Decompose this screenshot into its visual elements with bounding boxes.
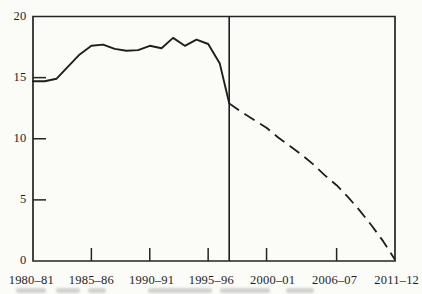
x-tick-label-2011: 2011–12 xyxy=(374,273,419,287)
y-tick-label-0: 0 xyxy=(20,253,26,267)
x-tick-label-1990: 1990–91 xyxy=(129,273,174,287)
y-tick-label-15: 15 xyxy=(14,70,27,84)
line-chart: 201510501980–811985–861990–911995–962000… xyxy=(0,0,422,294)
y-tick-label-20: 20 xyxy=(14,9,27,23)
x-tick-label-2000: 2000–01 xyxy=(250,273,295,287)
y-tick-label-10: 10 xyxy=(14,131,27,145)
projected-series-line xyxy=(229,103,395,259)
chart-figure: 201510501980–811985–861990–911995–962000… xyxy=(0,0,422,294)
actual-series-line xyxy=(33,38,229,103)
x-tick-label-1980: 1980–81 xyxy=(9,273,54,287)
x-tick-label-2006: 2006–07 xyxy=(312,273,357,287)
x-tick-label-1985: 1985–86 xyxy=(69,273,114,287)
y-tick-label-5: 5 xyxy=(20,192,26,206)
x-tick-label-1995: 1995–96 xyxy=(189,273,234,287)
